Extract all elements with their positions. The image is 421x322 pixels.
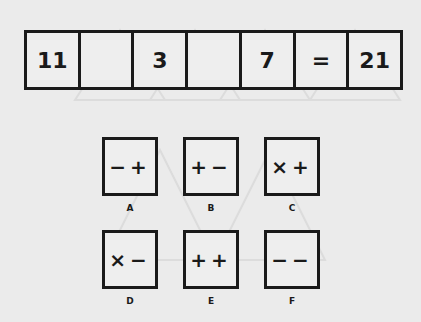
equation-cell-3: 3: [134, 33, 188, 87]
option-e[interactable]: ++ E: [183, 230, 239, 290]
equation-cell-1: 11: [27, 33, 81, 87]
option-d[interactable]: ×− D: [102, 230, 158, 290]
option-f-label: F: [264, 296, 320, 306]
option-f[interactable]: −− F: [264, 230, 320, 290]
option-a-symbols[interactable]: −+: [102, 137, 158, 196]
option-a[interactable]: −+ A: [102, 137, 158, 197]
equation-row: 11 3 7 = 21: [24, 30, 403, 90]
equals-sign: =: [296, 33, 350, 87]
blank-operator-slot-1[interactable]: [81, 33, 135, 87]
equation-result: 21: [349, 33, 400, 87]
option-c[interactable]: ×+ C: [264, 137, 320, 197]
option-c-label: C: [264, 203, 320, 213]
option-e-symbols[interactable]: ++: [183, 230, 239, 289]
option-b-symbols[interactable]: +−: [183, 137, 239, 196]
option-b[interactable]: +− B: [183, 137, 239, 197]
option-d-symbols[interactable]: ×−: [102, 230, 158, 289]
option-c-symbols[interactable]: ×+: [264, 137, 320, 196]
option-a-label: A: [102, 203, 158, 213]
option-d-label: D: [102, 296, 158, 306]
blank-operator-slot-2[interactable]: [188, 33, 242, 87]
option-e-label: E: [183, 296, 239, 306]
option-b-label: B: [183, 203, 239, 213]
option-f-symbols[interactable]: −−: [264, 230, 320, 289]
equation-cell-5: 7: [242, 33, 296, 87]
